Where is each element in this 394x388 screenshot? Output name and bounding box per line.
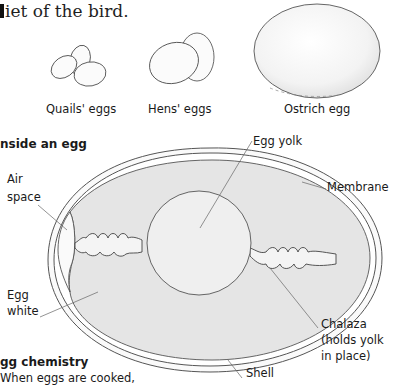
ostrich-egg-icon xyxy=(254,4,380,98)
quail-eggs-icon xyxy=(47,43,108,89)
quail-eggs-caption: Quails' eggs xyxy=(46,102,116,116)
egg-yolk-label: Egg yolk xyxy=(253,134,302,148)
ostrich-egg-caption: Ostrich egg xyxy=(284,102,350,116)
egg-chemistry-body: When eggs are cooked, xyxy=(0,371,135,385)
chalaza-label: Chalaza (holds yolk in place) xyxy=(321,317,384,363)
air-space-label: Air space xyxy=(7,172,41,204)
shell-label: Shell xyxy=(246,366,274,380)
egg-chemistry-heading: gg chemistry xyxy=(0,355,88,369)
hens-eggs-caption: Hens' eggs xyxy=(148,102,212,116)
inside-egg-heading: nside an egg xyxy=(0,137,87,151)
egg-white-label: Egg white xyxy=(7,288,38,318)
membrane-label: Membrane xyxy=(327,180,389,194)
hens-eggs-icon xyxy=(144,33,214,90)
